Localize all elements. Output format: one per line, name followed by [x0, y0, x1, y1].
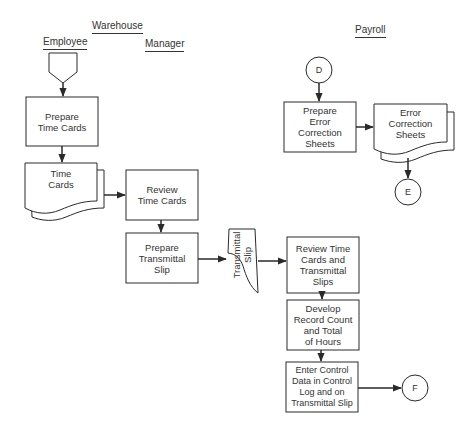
lane-label-employee: Employee — [43, 36, 87, 50]
lane-label-manager: Manager — [145, 38, 184, 52]
off-page-connector-shape — [49, 53, 77, 83]
review-cards-slips-label: Review TimeCards andTransmittalSlips — [287, 237, 359, 293]
flowchart-canvas — [0, 0, 472, 432]
transmittal-slip-label: TransmittalSlip — [231, 225, 253, 285]
connector-f-label: F — [402, 375, 428, 401]
connector-e-label: E — [395, 179, 421, 205]
review-time-cards-label: ReviewTime Cards — [126, 170, 198, 220]
enter-control-data-label: Enter ControlData in ControlLog and onTr… — [286, 362, 358, 412]
develop-record-count-label: DevelopRecord Countand Totalof Hours — [287, 300, 359, 350]
time-cards-label: TimeCards — [25, 165, 97, 193]
prepare-time-cards-label: PrepareTime Cards — [26, 97, 98, 146]
error-correction-sheets-label: ErrorCorrectionSheets — [374, 105, 447, 141]
lane-label-payroll: Payroll — [355, 24, 386, 38]
connector-d-label: D — [306, 57, 332, 83]
lane-label-warehouse: Warehouse — [92, 20, 143, 34]
prepare-error-correction-label: PrepareErrorCorrectionSheets — [284, 102, 356, 152]
prepare-transmittal-slip-label: PrepareTransmittalSlip — [126, 233, 198, 283]
